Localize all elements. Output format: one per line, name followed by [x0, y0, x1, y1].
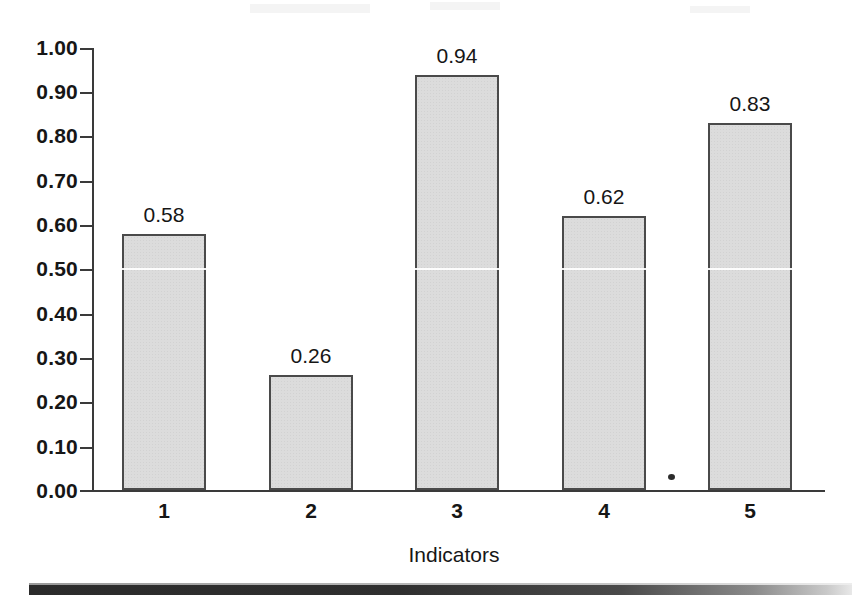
bar-2: [269, 375, 353, 490]
y-axis-tick: [80, 447, 92, 449]
bar-3: [415, 75, 499, 490]
x-axis-line: [92, 490, 825, 492]
y-tick-label: 0.10: [6, 436, 78, 457]
y-axis-tick: [80, 358, 92, 360]
bar-1: [122, 234, 206, 490]
y-axis-tick: [80, 490, 92, 492]
bar-value-label-2: 0.26: [269, 345, 353, 366]
y-axis-line: [92, 48, 94, 491]
figure: 1.00 0.90 0.80 0.70 0.60 0.50 0.40 0.30 …: [0, 0, 852, 598]
bar-value-label-3: 0.94: [415, 45, 499, 66]
y-tick-label: 0.50: [6, 258, 78, 279]
bar-value-label-5: 0.83: [708, 93, 792, 114]
y-tick-label: 0.40: [6, 303, 78, 324]
y-axis-tick: [80, 181, 92, 183]
y-axis-tick: [80, 225, 92, 227]
x-tick-label-2: 2: [269, 500, 353, 521]
y-axis-tick: [80, 402, 92, 404]
y-axis-tick: [80, 314, 92, 316]
y-axis-tick: [80, 48, 92, 50]
y-axis-tick: [80, 136, 92, 138]
x-axis-title-text: Indicators: [408, 543, 499, 567]
y-axis-tick: [80, 269, 92, 271]
bar-value-label-4: 0.62: [562, 186, 646, 207]
scan-speck-artifact: [668, 474, 675, 480]
y-tick-label: 0.80: [6, 125, 78, 146]
y-tick-label: 0.00: [6, 480, 78, 501]
x-tick-label-5: 5: [708, 500, 792, 521]
y-tick-label: 0.90: [6, 81, 78, 102]
bar-5: [708, 123, 792, 490]
bar-chart-plot-area: 1.00 0.90 0.80 0.70 0.60 0.50 0.40 0.30 …: [0, 0, 852, 598]
bar-4: [562, 216, 646, 490]
y-tick-label: 0.60: [6, 214, 78, 235]
page-bottom-rule: [29, 585, 852, 595]
y-tick-label: 0.70: [6, 170, 78, 191]
y-tick-label: 0.30: [6, 347, 78, 368]
x-tick-label-4: 4: [562, 500, 646, 521]
x-axis-title: Indicators: [0, 543, 852, 567]
y-axis-tick: [80, 92, 92, 94]
x-tick-label-1: 1: [122, 500, 206, 521]
y-axis-tick-labels: 1.00 0.90 0.80 0.70 0.60 0.50 0.40 0.30 …: [0, 0, 78, 598]
bar-value-label-1: 0.58: [122, 204, 206, 225]
x-tick-label-3: 3: [415, 500, 499, 521]
y-tick-label: 0.20: [6, 391, 78, 412]
y-tick-label: 1.00: [6, 37, 78, 58]
